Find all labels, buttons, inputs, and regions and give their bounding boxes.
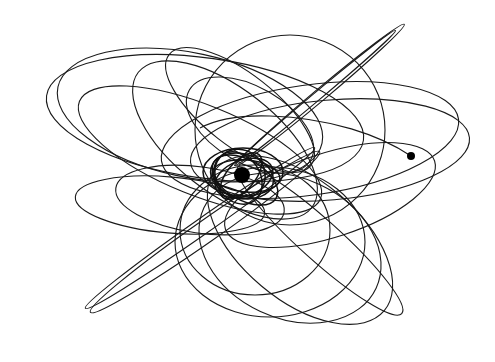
orbit-path	[232, 20, 408, 171]
central-body	[234, 167, 250, 183]
orbit-path	[84, 143, 326, 322]
orbit-plot-svg	[0, 0, 495, 362]
orbit-path	[45, 26, 335, 203]
orbit-path	[154, 65, 466, 216]
orbit-paths	[38, 20, 474, 357]
satellite-body	[407, 152, 415, 160]
orbit-path	[38, 36, 372, 199]
orbit-path	[111, 155, 289, 244]
orbit-plot	[0, 0, 495, 362]
orbit-path	[106, 31, 343, 248]
